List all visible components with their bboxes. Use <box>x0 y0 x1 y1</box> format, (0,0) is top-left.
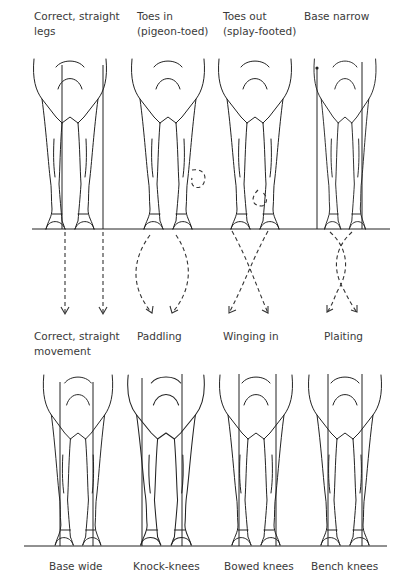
drawing-toes-in <box>131 59 204 229</box>
drawing-base-narrow <box>314 59 376 229</box>
movement-paddling <box>136 235 188 313</box>
drawing-correct-straight-legs <box>33 59 106 229</box>
drawing-base-wide <box>43 375 112 546</box>
drawing-toes-out <box>218 59 291 229</box>
drawing-bench-knees <box>308 374 381 546</box>
movement-winging-in <box>229 231 268 313</box>
movement-plaiting <box>327 232 357 312</box>
drawing-bowed-knees <box>219 374 292 546</box>
drawing-knock-knees <box>128 374 205 546</box>
conformation-diagram <box>0 0 405 584</box>
movement-correct-straight <box>61 232 107 314</box>
